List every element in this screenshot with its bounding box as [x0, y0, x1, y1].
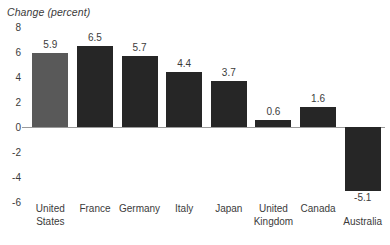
plot-area: 86420-2-4-6 5.96.55.74.43.70.61.6-5.1	[28, 27, 385, 202]
bar-slot[interactable]: 3.7	[211, 27, 247, 202]
bar[interactable]	[300, 107, 336, 127]
bar-value-label: 1.6	[311, 93, 325, 104]
category-label: Japan	[207, 203, 252, 216]
bar-slot[interactable]: 4.4	[166, 27, 202, 202]
bar-value-label: 0.6	[266, 106, 280, 117]
bar-value-label: 5.7	[133, 42, 147, 53]
bar-value-label: 3.7	[222, 67, 236, 78]
category-label: Australia	[340, 216, 385, 229]
y-axis-title: Change (percent)	[7, 6, 90, 18]
category-label: Italy	[162, 203, 207, 216]
bar[interactable]	[166, 72, 202, 127]
y-tick-label: -2	[12, 147, 21, 158]
category-label: United Kingdom	[251, 203, 296, 228]
y-tick-label: 8	[15, 22, 21, 33]
bar-slot[interactable]: 0.6	[255, 27, 291, 202]
category-label: Germany	[117, 203, 162, 216]
bar[interactable]	[77, 46, 113, 127]
category-label: United States	[28, 203, 73, 228]
bar[interactable]	[345, 127, 381, 191]
y-tick-label: -4	[12, 172, 21, 183]
y-tick-label: -6	[12, 197, 21, 208]
bar-slot[interactable]: -5.1	[345, 27, 381, 202]
bar-series: 5.96.55.74.43.70.61.6-5.1	[28, 27, 385, 202]
bar[interactable]	[122, 56, 158, 127]
bar-value-label: 6.5	[88, 32, 102, 43]
y-tick-label: 6	[15, 47, 21, 58]
bar-value-label: 5.9	[43, 39, 57, 50]
bar-chart: Change (percent) 86420-2-4-6 5.96.55.74.…	[0, 0, 390, 245]
bar-value-label: 4.4	[177, 58, 191, 69]
y-tick-label: 0	[15, 122, 21, 133]
y-tick-label: 2	[15, 97, 21, 108]
bar-slot[interactable]: 6.5	[77, 27, 113, 202]
y-tick-label: 4	[15, 72, 21, 83]
category-label: Canada	[296, 203, 341, 216]
bar-slot[interactable]: 1.6	[300, 27, 336, 202]
category-label: France	[73, 203, 118, 216]
bar[interactable]	[211, 81, 247, 127]
bar[interactable]	[32, 53, 68, 127]
x-axis-category-labels: United StatesFranceGermanyItalyJapanUnit…	[28, 203, 385, 245]
bar-slot[interactable]: 5.7	[122, 27, 158, 202]
bar[interactable]	[255, 120, 291, 128]
bar-slot[interactable]: 5.9	[32, 27, 68, 202]
bar-value-label: -5.1	[354, 192, 371, 203]
